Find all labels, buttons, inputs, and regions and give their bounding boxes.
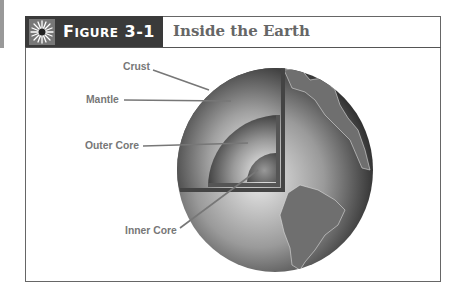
label-crust: Crust [123, 60, 150, 72]
earth-diagram [0, 0, 465, 293]
label-inner-core: Inner Core [125, 224, 177, 236]
crust-leader-line [153, 70, 209, 90]
mantle-leader-line [124, 100, 231, 101]
label-mantle: Mantle [86, 93, 119, 105]
label-outer-core: Outer Core [85, 139, 139, 151]
